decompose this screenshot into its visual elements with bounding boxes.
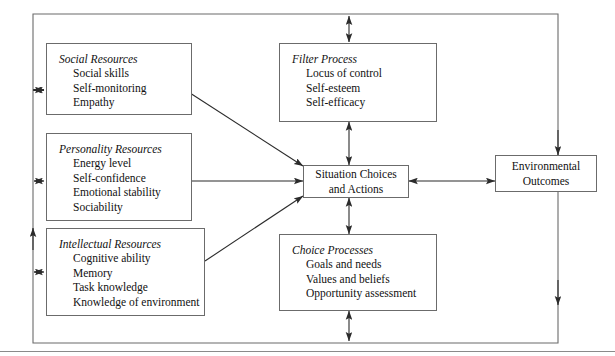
list-item: Empathy [73, 95, 191, 110]
environmental-outcomes-line-2: Outcomes [512, 174, 580, 189]
list-item: Values and beliefs [306, 272, 436, 287]
box-social-resources[interactable]: Social Resources Social skills Self-moni… [46, 43, 192, 115]
box-environmental-outcomes[interactable]: Environmental Outcomes [495, 155, 597, 192]
box-personality-resources[interactable]: Personality Resources Energy level Self-… [46, 133, 192, 221]
filter-process-list: Locus of control Self-esteem Self-effica… [292, 66, 436, 110]
personality-resources-list: Energy level Self-confidence Emotional s… [59, 156, 191, 214]
list-item: Knowledge of environment [73, 295, 204, 310]
list-item: Memory [73, 266, 204, 281]
choice-processes-heading: Choice Processes [292, 243, 436, 257]
environmental-outcomes-text: Environmental Outcomes [512, 159, 580, 188]
list-item: Social skills [73, 66, 191, 81]
list-item: Self-monitoring [73, 81, 191, 96]
list-item: Energy level [73, 156, 191, 171]
box-intellectual-resources[interactable]: Intellectual Resources Cognitive ability… [46, 228, 205, 316]
list-item: Goals and needs [306, 257, 436, 272]
situation-choices-text: Situation Choices and Actions [315, 167, 396, 196]
diagram-canvas: Social Resources Social skills Self-moni… [0, 0, 615, 356]
social-resources-heading: Social Resources [59, 52, 191, 66]
box-choice-processes[interactable]: Choice Processes Goals and needs Values … [279, 234, 437, 311]
box-filter-process[interactable]: Filter Process Locus of control Self-est… [279, 43, 437, 122]
list-item: Task knowledge [73, 280, 204, 295]
social-resources-list: Social skills Self-monitoring Empathy [59, 66, 191, 110]
environmental-outcomes-line-1: Environmental [512, 159, 580, 174]
list-item: Emotional stability [73, 185, 191, 200]
list-item: Opportunity assessment [306, 286, 436, 301]
box-situation-choices-and-actions[interactable]: Situation Choices and Actions [303, 165, 409, 198]
situation-choices-line-2: and Actions [315, 182, 396, 197]
list-item: Self-esteem [306, 81, 436, 96]
list-item: Self-confidence [73, 171, 191, 186]
choice-processes-list: Goals and needs Values and beliefs Oppor… [292, 257, 436, 301]
list-item: Locus of control [306, 66, 436, 81]
personality-resources-heading: Personality Resources [59, 142, 191, 156]
list-item: Self-efficacy [306, 95, 436, 110]
filter-process-heading: Filter Process [292, 52, 436, 66]
intellectual-resources-list: Cognitive ability Memory Task knowledge … [59, 251, 204, 309]
intellectual-resources-heading: Intellectual Resources [59, 237, 204, 251]
situation-choices-line-1: Situation Choices [315, 167, 396, 182]
list-item: Cognitive ability [73, 251, 204, 266]
list-item: Sociability [73, 200, 191, 215]
